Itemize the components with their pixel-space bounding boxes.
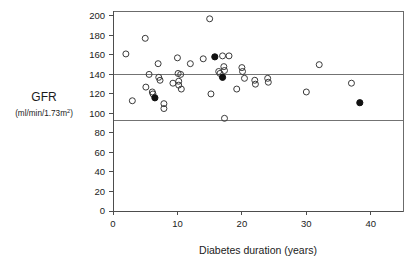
data-point <box>212 54 218 60</box>
x-axis-title: Diabetes duration (years) <box>199 244 317 256</box>
data-point <box>129 98 135 104</box>
y-tick-label: 60 <box>94 147 105 158</box>
x-tick-label: 0 <box>110 218 115 229</box>
data-point <box>303 89 309 95</box>
data-point <box>208 91 214 97</box>
y-tick-label: 160 <box>89 49 105 60</box>
data-point <box>241 75 247 81</box>
data-point <box>219 74 225 80</box>
y-tick-label: 140 <box>89 69 105 80</box>
data-point <box>348 80 354 86</box>
y-axis: 020406080100120140160180200 <box>89 10 113 216</box>
data-point <box>142 35 148 41</box>
data-point <box>220 53 226 59</box>
data-point <box>221 68 227 74</box>
chart-svg: 020406080100120140160180200 010203040 Di… <box>0 0 411 264</box>
data-point <box>170 80 176 86</box>
x-tick-label: 40 <box>365 218 376 229</box>
y-tick-label: 80 <box>94 127 105 138</box>
y-tick-label: 180 <box>89 30 105 41</box>
data-point <box>174 55 180 61</box>
data-point <box>240 68 246 74</box>
open-circle-data-points <box>123 16 355 122</box>
data-point <box>200 56 206 62</box>
data-point <box>187 61 193 67</box>
y-tick-label: 40 <box>94 166 105 177</box>
data-point <box>316 62 322 68</box>
data-point <box>265 79 271 85</box>
data-point <box>234 86 240 92</box>
y-tick-label: 200 <box>89 10 105 21</box>
y-tick-label: 0 <box>100 205 105 216</box>
y-tick-label: 100 <box>89 108 105 119</box>
data-point <box>226 53 232 59</box>
plot-frame <box>113 11 403 211</box>
scatter-plot-figure: 020406080100120140160180200 010203040 Di… <box>0 0 411 264</box>
y-tick-label: 120 <box>89 88 105 99</box>
x-tick-label: 10 <box>172 218 183 229</box>
data-point <box>207 16 213 22</box>
data-point <box>252 81 258 87</box>
data-point <box>357 100 363 106</box>
x-tick-label: 20 <box>237 218 248 229</box>
y-axis-units: (ml/min/1.73m2) <box>15 108 73 118</box>
y-tick-label: 20 <box>94 186 105 197</box>
data-point <box>152 95 158 101</box>
plot-area-border <box>113 11 403 211</box>
y-axis-title: GFR <box>31 90 57 104</box>
x-axis: 010203040 <box>110 211 403 229</box>
data-point <box>155 61 161 67</box>
data-point <box>123 51 129 57</box>
x-tick-label: 30 <box>301 218 312 229</box>
data-point <box>143 84 149 90</box>
